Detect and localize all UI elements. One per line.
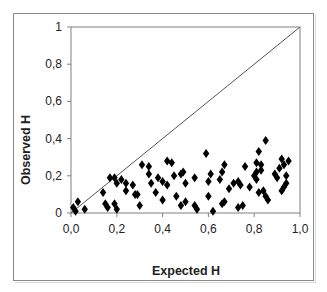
- x-tick-label: 0,0: [63, 222, 80, 236]
- y-axis: 00,20,40,60,81: [45, 20, 71, 220]
- x-axis: 0,00,20,40,60,81,0: [63, 213, 309, 236]
- y-tick-label: 1: [55, 20, 62, 34]
- y-tick-label: 0,2: [45, 169, 62, 183]
- x-axis-title: Expected H: [152, 264, 220, 278]
- y-axis-title: Observed H: [19, 115, 33, 185]
- scatter-chart: 00,20,40,60,81 0,00,20,40,60,81,0 Expect…: [0, 0, 327, 292]
- x-tick-label: 0,4: [154, 222, 171, 236]
- y-tick-label: 0,4: [45, 132, 62, 146]
- y-tick-label: 0,6: [45, 94, 62, 108]
- x-tick-label: 0,2: [108, 222, 125, 236]
- x-tick-label: 0,8: [246, 222, 263, 236]
- y-tick-label: 0,8: [45, 57, 62, 71]
- x-tick-label: 1,0: [292, 222, 309, 236]
- x-tick-label: 0,6: [200, 222, 217, 236]
- y-tick-label: 0: [55, 206, 62, 220]
